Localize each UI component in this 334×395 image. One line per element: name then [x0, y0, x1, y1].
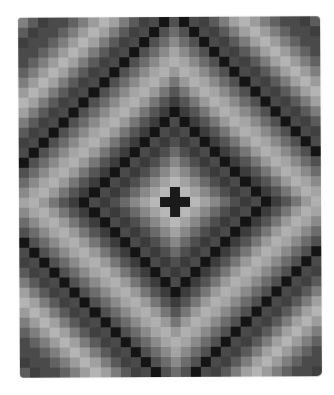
quilt-photo — [18, 16, 322, 378]
quilt-square — [312, 366, 322, 377]
